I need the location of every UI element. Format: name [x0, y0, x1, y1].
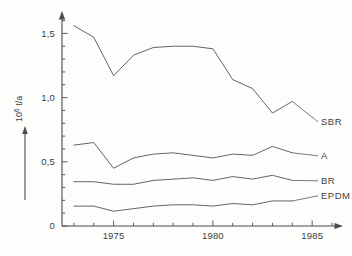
series-label-epdm: EPDM [321, 190, 350, 201]
x-tick-group [74, 221, 332, 227]
x-tick-label: 1985 [301, 230, 323, 241]
y-tick-label: 1,0 [41, 92, 55, 103]
series-line-sbr [74, 26, 292, 113]
y-tick-label: 0 [50, 220, 55, 231]
series-line-a [74, 143, 292, 169]
x-tick-label-group: 197519801985 [103, 230, 323, 241]
y-axis-arrow-icon [59, 11, 65, 20]
svg-text:106 t/a: 106 t/a [13, 96, 25, 122]
ylabel-arrow-icon [22, 126, 28, 200]
x-axis-arrow-icon [335, 223, 344, 229]
x-tick-label: 1975 [103, 230, 125, 241]
y-axis-label-unit: t/a [14, 96, 24, 109]
series-line-epdm [74, 201, 292, 211]
x-tick-label: 1980 [202, 230, 224, 241]
series-label-a: A [321, 150, 328, 161]
y-axis-label: 106 t/a [13, 96, 25, 122]
axis-lines [59, 11, 343, 229]
y-axis-label-base: 10 [14, 112, 24, 122]
y-tick-group [62, 21, 68, 226]
series-group [74, 26, 292, 212]
series-line-br [74, 175, 292, 184]
series-leader-a [292, 153, 318, 156]
y-tick-label-group: 00,51,01,5 [41, 28, 55, 232]
series-leader-epdm [292, 196, 318, 201]
series-leader-sbr [292, 101, 318, 121]
series-label-sbr: SBR [321, 116, 342, 127]
series-label-group: SBRABREPDM [292, 101, 350, 201]
series-label-br: BR [321, 175, 335, 186]
chart-container: 106 t/a 00,51,01,5 197519801985 SBRABREP… [0, 0, 352, 256]
y-tick-label: 1,5 [41, 28, 55, 39]
line-chart: 106 t/a 00,51,01,5 197519801985 SBRABREP… [0, 0, 352, 256]
y-tick-label: 0,5 [41, 156, 55, 167]
